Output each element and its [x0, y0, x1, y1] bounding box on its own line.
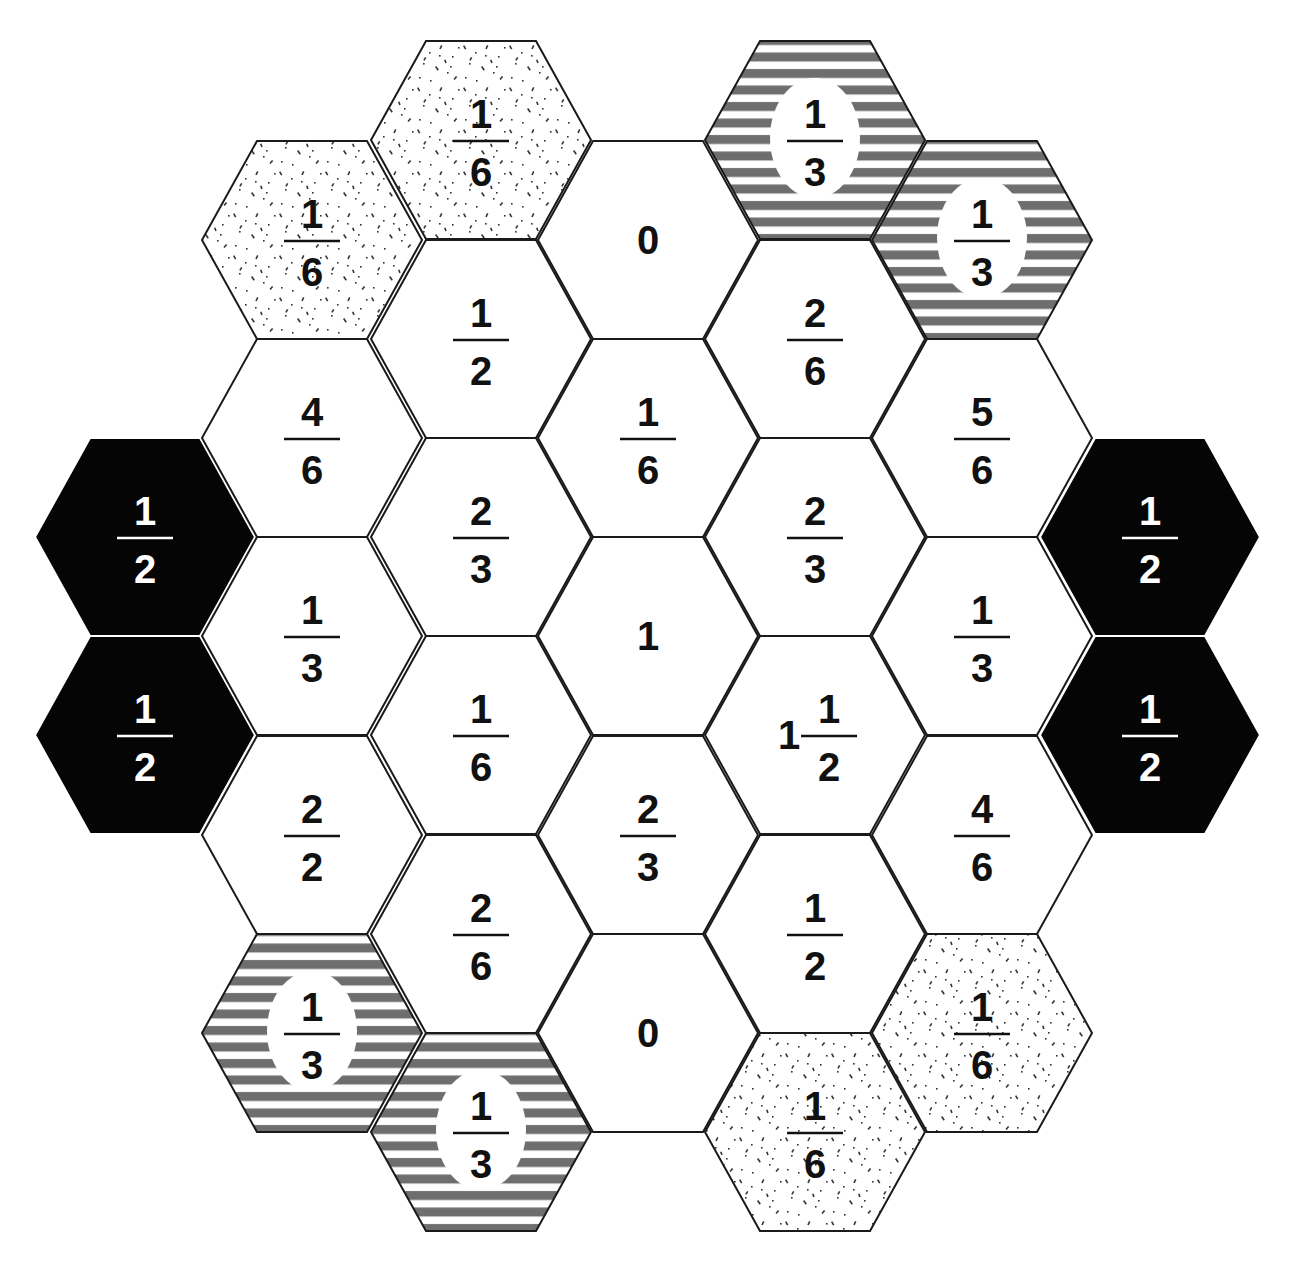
- denominator: 2: [470, 349, 492, 393]
- hex-board: 1212164613221316122316261301612301326231…: [0, 0, 1295, 1268]
- denominator: 2: [301, 845, 323, 889]
- whole-number: 1: [778, 713, 800, 757]
- numerator: 1: [637, 390, 659, 434]
- numerator: 1: [301, 985, 323, 1029]
- numerator: 1: [134, 687, 156, 731]
- numerator: 1: [470, 687, 492, 731]
- denominator: 6: [470, 150, 492, 194]
- numerator: 1: [1139, 489, 1161, 533]
- numerator: 1: [971, 192, 993, 236]
- denominator: 6: [637, 448, 659, 492]
- denominator: 3: [470, 547, 492, 591]
- numerator: 1: [804, 886, 826, 930]
- numerator: 1: [301, 588, 323, 632]
- denominator: 3: [637, 845, 659, 889]
- numerator: 1: [1139, 687, 1161, 731]
- denominator: 3: [470, 1142, 492, 1186]
- denominator: 6: [470, 944, 492, 988]
- numerator: 1: [804, 1084, 826, 1128]
- numerator: 1: [971, 985, 993, 1029]
- denominator: 2: [818, 745, 840, 789]
- numerator: 1: [818, 687, 840, 731]
- numerator: 1: [470, 291, 492, 335]
- whole-number: 0: [637, 218, 659, 262]
- numerator: 4: [301, 390, 324, 434]
- denominator: 6: [301, 250, 323, 294]
- denominator: 2: [134, 745, 156, 789]
- denominator: 3: [971, 250, 993, 294]
- numerator: 2: [804, 489, 826, 533]
- denominator: 3: [301, 646, 323, 690]
- denominator: 3: [804, 547, 826, 591]
- denominator: 2: [134, 547, 156, 591]
- denominator: 6: [971, 448, 993, 492]
- numerator: 2: [470, 489, 492, 533]
- denominator: 6: [470, 745, 492, 789]
- numerator: 4: [971, 787, 994, 831]
- whole-number: 1: [637, 614, 659, 658]
- whole-number: 0: [637, 1011, 659, 1055]
- numerator: 2: [637, 787, 659, 831]
- numerator: 2: [804, 291, 826, 335]
- denominator: 3: [971, 646, 993, 690]
- numerator: 1: [134, 489, 156, 533]
- denominator: 2: [1139, 745, 1161, 789]
- numerator: 5: [971, 390, 993, 434]
- numerator: 1: [470, 1084, 492, 1128]
- numerator: 1: [971, 588, 993, 632]
- numerator: 1: [470, 92, 492, 136]
- denominator: 6: [301, 448, 323, 492]
- denominator: 3: [804, 150, 826, 194]
- denominator: 6: [971, 845, 993, 889]
- numerator: 1: [804, 92, 826, 136]
- denominator: 2: [804, 944, 826, 988]
- numerator: 2: [470, 886, 492, 930]
- numerator: 1: [301, 192, 323, 236]
- denominator: 6: [804, 349, 826, 393]
- denominator: 6: [971, 1043, 993, 1087]
- numerator: 2: [301, 787, 323, 831]
- denominator: 6: [804, 1142, 826, 1186]
- denominator: 2: [1139, 547, 1161, 591]
- denominator: 3: [301, 1043, 323, 1087]
